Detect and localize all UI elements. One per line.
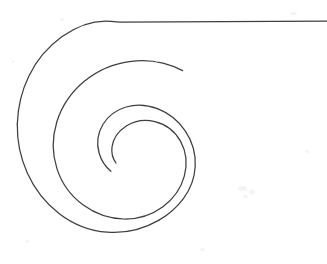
spiral-drawing-svg xyxy=(0,0,327,264)
spiral-outer-arc xyxy=(17,124,158,232)
spiral-eye-arc xyxy=(98,105,158,171)
spiral-bridge-arc xyxy=(158,109,196,221)
spiral-outer-whorl-and-tail xyxy=(17,21,327,124)
drawing-canvas xyxy=(0,0,327,264)
spiral-inner-whorl xyxy=(53,61,186,219)
